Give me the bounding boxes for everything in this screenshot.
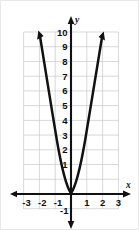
y-axis-label: y <box>74 15 80 25</box>
x-tick-label: 2 <box>100 197 105 208</box>
y-tick-label: 9 <box>62 41 67 52</box>
y-tick-label-negative: -1 <box>60 205 69 216</box>
coordinate-plane-graph: -3 -2 -1 1 2 3 10 9 8 7 6 5 4 3 2 1 -1 x… <box>1 1 139 230</box>
arrow-right-icon <box>123 191 131 198</box>
x-tick-label: 3 <box>116 197 121 208</box>
arrow-up-icon <box>68 16 75 24</box>
x-tick-label: 1 <box>84 197 90 208</box>
x-tick-label: -3 <box>22 197 30 208</box>
y-tick-label: 2 <box>62 144 67 155</box>
y-tick-label: 4 <box>62 115 68 126</box>
y-tick-label: 6 <box>62 85 67 96</box>
x-axis-label: x <box>125 180 131 190</box>
y-tick-label: 7 <box>62 71 67 82</box>
arrow-left-icon <box>10 191 17 197</box>
graph-screenshot: -3 -2 -1 1 2 3 10 9 8 7 6 5 4 3 2 1 -1 x… <box>0 0 139 230</box>
arrow-down-icon <box>68 221 75 229</box>
y-tick-label: 10 <box>57 27 68 38</box>
y-tick-label: 8 <box>62 56 67 67</box>
x-tick-label: -2 <box>38 197 46 208</box>
y-tick-label: 3 <box>62 130 67 141</box>
y-tick-label: 5 <box>62 100 68 111</box>
